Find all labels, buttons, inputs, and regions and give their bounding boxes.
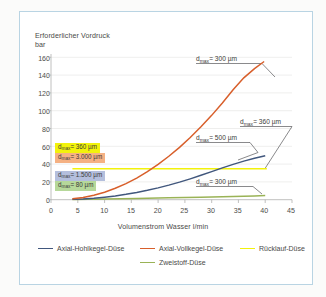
legend-item-ruecklauf-duese[interactable]: Rücklauf-Düse <box>240 245 305 252</box>
legend-swatch-axial-hohlkegel-duese <box>38 248 53 249</box>
annotation-300um-zweistoff: dmax= 300 µm <box>196 178 237 186</box>
leader-line-500um-hohlkegel <box>196 143 258 161</box>
highlight-label-1500um-text: dmax= 1.500 µm <box>58 171 102 178</box>
legend-label-ruecklauf-duese: Rücklauf-Düse <box>259 245 305 252</box>
legend-swatch-zweistoff-duese <box>140 262 155 263</box>
legend-item-axial-hohlkegel-duese[interactable]: Axial-Hohlkegel-Düse <box>38 245 124 252</box>
legend-label-zweistoff-duese: Zweistoff-Düse <box>159 259 206 266</box>
plot-area <box>0 0 326 297</box>
highlight-label-3000um: dmax= 3.000 µm <box>55 153 105 163</box>
legend-item-axial-vollkegel-duese[interactable]: Axial-Vollkegel-Düse <box>140 245 223 252</box>
figure-canvas: Erforderlicher Vordruckbar Volumenstrom … <box>0 0 326 297</box>
highlight-label-1500um: dmax= 1.500 µm <box>55 171 105 181</box>
leader-line-300um-zweistoff <box>196 187 262 195</box>
annotation-360um-ruecklauf: dmax= 360 µm <box>240 118 281 126</box>
annotation-500um-hohlkegel: dmax= 500 µm <box>196 134 237 142</box>
x-tick-marks <box>51 200 292 203</box>
legend-label-axial-vollkegel-duese: Axial-Vollkegel-Düse <box>159 245 223 252</box>
legend-item-zweistoff-duese[interactable]: Zweistoff-Düse <box>140 259 206 266</box>
highlight-label-360um-text: dmax= 360 µm <box>58 143 97 150</box>
leader-line-360um-ruecklauf <box>240 127 292 169</box>
highlight-label-360um: dmax= 360 µm <box>55 143 100 153</box>
highlight-label-3000um-text: dmax= 3.000 µm <box>58 153 102 160</box>
legend-swatch-ruecklauf-duese <box>240 248 255 249</box>
highlight-label-80um-text: dmax= 80 µm <box>58 181 93 188</box>
legend-swatch-axial-vollkegel-duese <box>140 248 155 249</box>
highlight-label-80um: dmax= 80 µm <box>55 181 96 191</box>
annotation-300um-vollkegel: dmax= 300 µm <box>196 55 237 63</box>
legend-label-axial-hohlkegel-duese: Axial-Hohlkegel-Düse <box>57 245 124 252</box>
y-tick-marks <box>48 57 51 199</box>
